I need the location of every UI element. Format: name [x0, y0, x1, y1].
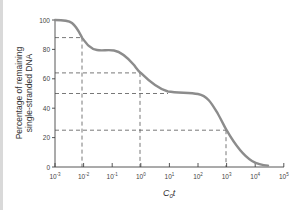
chart: 0 20 40 60 80 100 10-3 10-2 10-1 100 101…	[0, 0, 300, 210]
reference-lines	[55, 38, 226, 167]
x-tick-1e5: 105	[279, 172, 289, 180]
x-tick-1e0: 100	[136, 172, 146, 180]
x-tick-1e1: 101	[165, 172, 175, 180]
y-axis-label-line2: single-stranded DNA	[24, 53, 34, 132]
renaturation-curve	[55, 20, 268, 166]
y-tick-80: 80	[43, 46, 51, 53]
x-tick-1e-2: 10-2	[78, 172, 90, 180]
x-tick-1e3: 103	[222, 172, 232, 180]
x-tick-1e2: 102	[193, 172, 203, 180]
y-tick-60: 60	[43, 75, 51, 82]
x-axis-label: C0t	[163, 188, 176, 199]
y-tick-100: 100	[39, 17, 50, 24]
y-tick-40: 40	[43, 105, 51, 112]
x-tick-1e-1: 10-1	[107, 172, 119, 180]
y-axis-label-line1: Percentage of remaining	[14, 46, 24, 139]
x-tick-1e-3: 10-3	[49, 172, 61, 180]
y-tick-0: 0	[46, 164, 50, 171]
y-tick-20: 20	[43, 134, 51, 141]
x-tick-1e4: 104	[250, 172, 260, 180]
